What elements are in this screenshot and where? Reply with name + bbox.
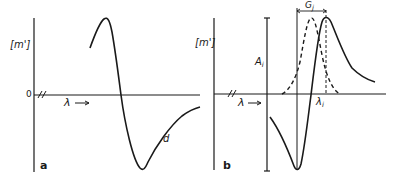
panel-b-y-axis-label: [m']	[195, 38, 215, 48]
panel-b-width-label: Gj	[305, 1, 314, 12]
panel-b-label: b	[223, 160, 231, 171]
panel-a-dispersion-curve	[90, 18, 200, 169]
diagram-figure: [m'] 0 λ d a [m'] λ Ai Gj λi b	[0, 0, 398, 183]
panel-b-lambda-label: λ	[238, 97, 245, 108]
panel-a-lambda-label: λ	[64, 97, 71, 108]
panel-b-lambda-arrow	[248, 101, 261, 105]
panel-b-amplitude-label: Ai	[255, 57, 264, 69]
panel-b-absorption-curve	[282, 18, 340, 94]
panel-a-zero-label: 0	[26, 90, 32, 99]
panel-a-lambda-arrow	[75, 101, 89, 105]
panel-b-peak-label: λi	[316, 97, 324, 109]
panel-a-label: a	[40, 160, 47, 171]
diagram-canvas	[0, 0, 398, 183]
panel-a-y-axis-label: [m']	[10, 40, 30, 50]
panel-a-curve-label: d	[163, 134, 169, 144]
